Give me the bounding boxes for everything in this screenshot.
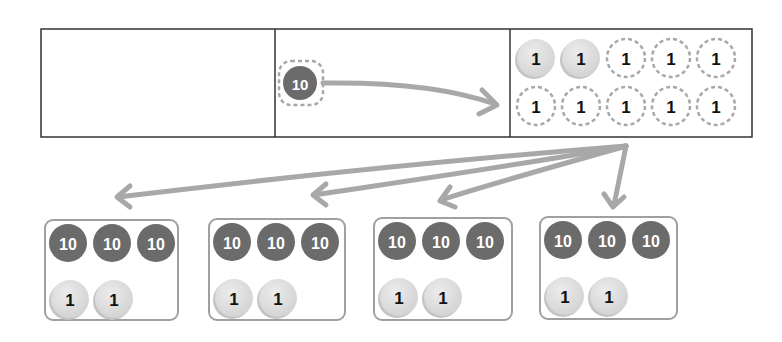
- arrow-shaft: [323, 83, 495, 104]
- group-2: 10101011: [209, 219, 345, 320]
- ten-coin: 10: [257, 223, 295, 261]
- coin-label: 1: [109, 291, 118, 310]
- one-coin: 1: [697, 87, 735, 125]
- coin-label: 1: [666, 98, 675, 117]
- one-coin: 1: [517, 87, 555, 125]
- ten-coin: 10: [301, 223, 339, 261]
- one-coin: 1: [544, 277, 584, 317]
- one-coin: 1: [652, 87, 690, 125]
- ten-coin: 10: [422, 222, 460, 260]
- ten-coin: 10: [632, 221, 670, 259]
- coin-label: 10: [147, 236, 165, 253]
- coin-label: 1: [531, 98, 540, 117]
- ten-coin: 10: [378, 222, 416, 260]
- ten-coin: 10: [137, 224, 175, 262]
- one-coin: 1: [378, 278, 418, 318]
- coin-label: 1: [666, 50, 675, 69]
- coin-label: 1: [560, 288, 569, 307]
- coin-label: 1: [621, 50, 630, 69]
- tens-cell-coin: 10: [279, 61, 323, 105]
- one-coin: 1: [93, 280, 133, 320]
- one-coin: 1: [422, 278, 462, 318]
- coin-label: 10: [311, 235, 329, 252]
- ten-coin: 10: [49, 224, 87, 262]
- coin-label: 1: [711, 50, 720, 69]
- one-coin: 1: [607, 39, 645, 77]
- one-coin: 1: [562, 87, 600, 125]
- one-coin: 1: [588, 277, 628, 317]
- ten-coin: 10: [93, 224, 131, 262]
- group-3: 10101011: [374, 218, 512, 320]
- coin-label: 10: [432, 234, 450, 251]
- trade-arrow: [323, 83, 497, 114]
- one-coin: 1: [697, 39, 735, 77]
- coin-label: 10: [59, 236, 77, 253]
- coin-label: 1: [273, 290, 282, 309]
- coin-label: 1: [65, 291, 74, 310]
- coin-label: 10: [598, 233, 616, 250]
- coin-label: 1: [711, 98, 720, 117]
- coin-label: 10: [267, 235, 285, 252]
- ones-cell-coins: 1111111111: [515, 39, 735, 125]
- group-4: 10101011: [540, 217, 677, 319]
- coin-label: 1: [576, 98, 585, 117]
- ten-coin: 10: [588, 221, 626, 259]
- arrow-to-group-1: [118, 146, 626, 197]
- coin-label: 10: [103, 236, 121, 253]
- one-coin: 1: [257, 279, 297, 319]
- coin-label: 10: [388, 234, 406, 251]
- ten-coin: 10: [466, 222, 504, 260]
- coin-label: 1: [621, 98, 630, 117]
- coin-label: 10: [476, 234, 494, 251]
- one-coin: 1: [652, 39, 690, 77]
- division-regrouping-diagram: 10 1111111111 10101011101010111010101110…: [0, 0, 782, 342]
- coin-label: 1: [576, 50, 585, 69]
- coin-label: 1: [604, 288, 613, 307]
- one-coin: 1: [213, 279, 253, 319]
- equal-groups: 10101011101010111010101110101011: [45, 217, 677, 320]
- coin-label: 10: [223, 235, 241, 252]
- coin-label: 10: [554, 233, 572, 250]
- one-coin: 1: [49, 280, 89, 320]
- coin-label: 1: [394, 289, 403, 308]
- ten-coin: 10: [213, 223, 251, 261]
- coin-label: 1: [531, 50, 540, 69]
- coin-label: 1: [229, 290, 238, 309]
- coin-label: 1: [438, 289, 447, 308]
- one-coin: 1: [607, 87, 645, 125]
- distribution-arrows: [117, 146, 626, 207]
- one-coin: 1: [560, 39, 600, 79]
- ten-coin: 10: [544, 221, 582, 259]
- ten-coin-label: 10: [292, 76, 309, 93]
- group-1: 10101011: [45, 220, 178, 320]
- coin-label: 10: [642, 233, 660, 250]
- one-coin: 1: [515, 39, 555, 79]
